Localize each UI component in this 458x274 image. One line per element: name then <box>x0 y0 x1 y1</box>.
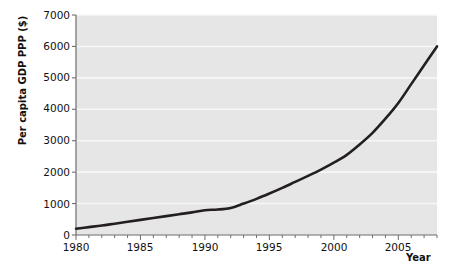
plot-background <box>76 15 437 235</box>
x-axis-minor-ticks <box>76 235 437 240</box>
chart-figure: Per capita GDP PPP ($) 7000 6000 5000 40… <box>0 0 458 274</box>
plot-area <box>0 0 458 274</box>
